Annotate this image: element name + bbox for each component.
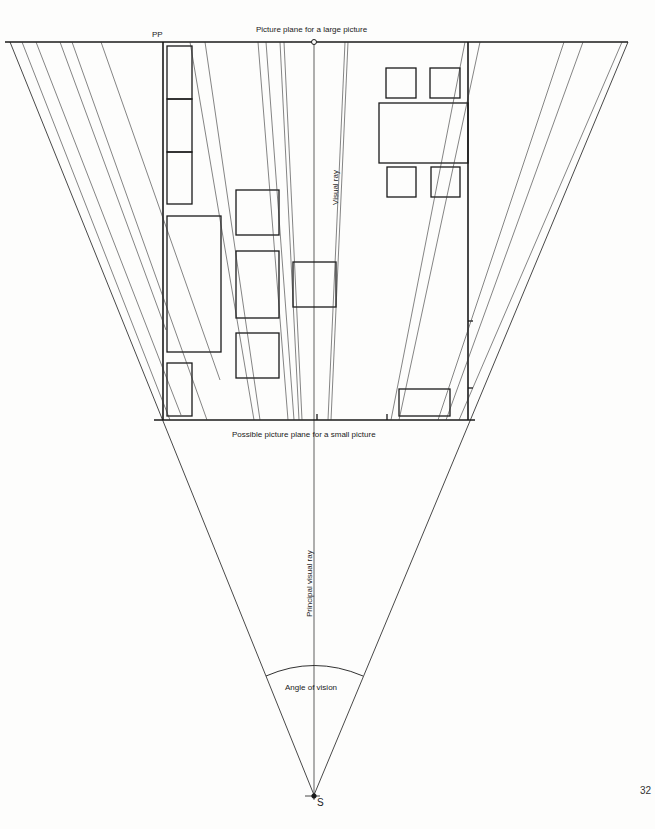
- pp-label: PP: [152, 30, 163, 39]
- small-picture-plane-label: Possible picture plane for a small pictu…: [232, 430, 376, 439]
- visual-ray-label: Visual ray: [331, 170, 340, 205]
- principal-visual-ray-label: Principal visual ray: [305, 550, 314, 617]
- angle-of-vision-label: Angle of vision: [285, 683, 337, 692]
- cone-edge-right: [314, 42, 628, 795]
- visual-rays: [22, 42, 622, 420]
- cone-edge-left: [10, 42, 314, 795]
- large-picture-plane-label: Picture plane for a large picture: [256, 25, 367, 34]
- perspective-diagram: [0, 0, 655, 829]
- station-point-label: S: [317, 797, 324, 808]
- angle-of-vision-arc: [266, 666, 363, 677]
- pp-center-marker: [312, 40, 317, 45]
- page-number: 32: [640, 785, 651, 796]
